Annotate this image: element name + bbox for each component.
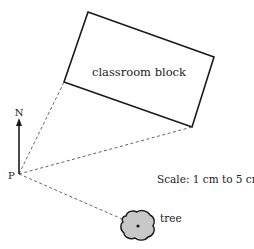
north-arrow-icon xyxy=(16,118,22,174)
point-p-label: P xyxy=(8,170,15,181)
sight-line-to-tree xyxy=(19,174,138,226)
tree-label: tree xyxy=(160,212,182,224)
classroom-block-label: classroom block xyxy=(92,65,187,79)
north-label: N xyxy=(15,107,24,118)
sight-line-to-left-corner xyxy=(19,82,64,174)
plan-diagram: classroom block N P tree Scale: 1 cm to … xyxy=(0,0,254,249)
sight-line-to-bottom-corner xyxy=(19,127,192,174)
scale-label: Scale: 1 cm to 5 cm xyxy=(157,173,254,185)
tree-center-dot xyxy=(136,224,139,227)
